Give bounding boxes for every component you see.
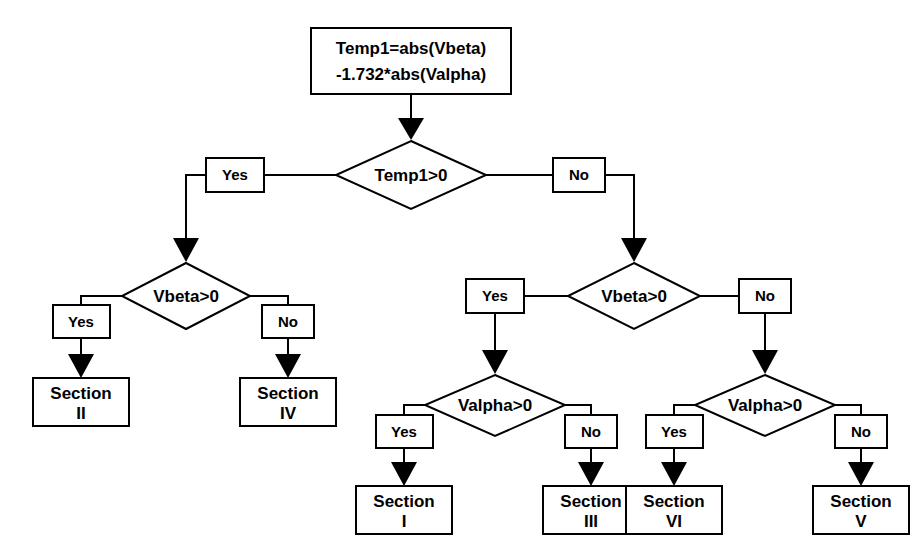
connector-left-vbeta-no-out <box>250 296 288 305</box>
start-process-line1: Temp1=abs(Vbeta) <box>336 39 486 58</box>
label-root-yes: Yes <box>206 158 264 192</box>
terminal-section-vi: Section VI <box>626 486 722 534</box>
start-process-box <box>311 28 511 94</box>
decision-left-valpha-label: Valpha>0 <box>458 396 532 415</box>
terminal-section-ii-line1: Section <box>50 384 111 403</box>
terminal-section-v-line2: V <box>855 512 867 531</box>
arrowhead-left-vbeta-yes-to-section-ii <box>68 354 94 378</box>
terminal-section-v-line1: Section <box>830 492 891 511</box>
label-left-vbeta-yes: Yes <box>53 305 110 338</box>
connector-left-vbeta-yes-out <box>81 296 122 305</box>
label-right-valpha-no: No <box>835 415 887 448</box>
label-left-valpha-no: No <box>565 415 617 448</box>
arrowhead-left-vbeta-no-to-section-iv <box>275 354 301 378</box>
label-left-valpha-yes-text: Yes <box>391 423 417 440</box>
arrowhead-right-vbeta-no-to-right-valpha <box>752 350 778 374</box>
terminal-section-vi-line1: Section <box>643 492 704 511</box>
decision-right-vbeta-label: Vbeta>0 <box>601 287 667 306</box>
label-right-vbeta-yes: Yes <box>466 279 524 313</box>
label-root-no: No <box>553 158 605 192</box>
arrowhead-left-valpha-no-to-section-iii <box>578 462 604 486</box>
terminal-section-iii: Section III <box>543 486 639 534</box>
connector-left-valpha-yes-out <box>404 405 425 415</box>
decision-right-valpha-node: Valpha>0 <box>695 375 835 436</box>
connector-root-yes-to-left-vbeta <box>186 175 206 240</box>
label-right-vbeta-no: No <box>739 279 791 313</box>
decision-left-vbeta-node: Vbeta>0 <box>122 263 250 329</box>
decision-left-valpha-node: Valpha>0 <box>425 375 565 436</box>
connector-right-valpha-no-out <box>835 405 861 415</box>
terminal-section-iv-line1: Section <box>257 384 318 403</box>
terminal-section-i: Section I <box>356 486 452 534</box>
decision-temp1-label: Temp1>0 <box>375 166 448 185</box>
terminal-section-iii-line2: III <box>584 512 598 531</box>
label-right-valpha-no-text: No <box>851 423 871 440</box>
terminal-section-ii-line2: II <box>76 404 85 423</box>
decision-right-valpha-label: Valpha>0 <box>728 396 802 415</box>
connector-left-valpha-no-out <box>565 405 591 415</box>
arrowhead-start-to-root <box>398 118 424 140</box>
label-root-no-text: No <box>569 166 589 183</box>
arrowhead-right-vbeta-yes-to-left-valpha <box>482 350 508 374</box>
connector-root-no-to-right-vbeta <box>605 175 634 240</box>
start-process-line2: -1.732*abs(Valpha) <box>336 65 486 84</box>
decision-right-vbeta-node: Vbeta>0 <box>568 263 700 329</box>
terminal-section-i-line2: I <box>402 512 407 531</box>
decision-left-vbeta-label: Vbeta>0 <box>153 287 219 306</box>
flowchart-canvas: Temp1=abs(Vbeta) -1.732*abs(Valpha) Temp… <box>0 0 915 560</box>
label-right-vbeta-yes-text: Yes <box>482 287 508 304</box>
arrowhead-right-valpha-no-to-section-v <box>848 462 874 486</box>
label-right-valpha-yes-text: Yes <box>661 423 687 440</box>
connector-right-valpha-yes-out <box>674 405 695 415</box>
terminal-section-iii-line1: Section <box>560 492 621 511</box>
decision-temp1-node: Temp1>0 <box>336 141 486 209</box>
label-left-vbeta-no: No <box>262 305 314 338</box>
terminal-section-iv: Section IV <box>240 378 336 426</box>
label-left-vbeta-no-text: No <box>278 313 298 330</box>
label-left-vbeta-yes-text: Yes <box>68 313 94 330</box>
arrowhead-left-valpha-yes-to-section-i <box>391 462 417 486</box>
terminal-section-v: Section V <box>813 486 909 534</box>
label-left-valpha-no-text: No <box>581 423 601 440</box>
terminal-section-vi-line2: VI <box>666 512 682 531</box>
start-process-node: Temp1=abs(Vbeta) -1.732*abs(Valpha) <box>311 28 511 94</box>
arrowhead-root-yes-to-left-vbeta <box>173 238 199 262</box>
flowchart-svg: Temp1=abs(Vbeta) -1.732*abs(Valpha) Temp… <box>0 0 915 560</box>
terminal-section-i-line1: Section <box>373 492 434 511</box>
label-right-vbeta-no-text: No <box>755 287 775 304</box>
label-root-yes-text: Yes <box>222 166 248 183</box>
arrowhead-root-no-to-right-vbeta <box>621 238 647 262</box>
arrowhead-right-valpha-yes-to-section-vi <box>661 462 687 486</box>
label-right-valpha-yes: Yes <box>646 415 703 448</box>
terminal-section-ii: Section II <box>33 378 129 426</box>
terminal-section-iv-line2: IV <box>280 404 297 423</box>
label-left-valpha-yes: Yes <box>376 415 433 448</box>
